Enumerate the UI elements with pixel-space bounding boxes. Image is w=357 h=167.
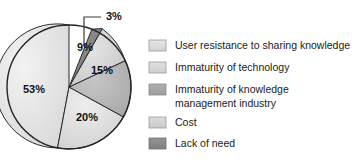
pie-group (0, 24, 131, 149)
slice-label-3pct: 3% (106, 10, 122, 22)
legend-item-cost[interactable]: Cost (149, 116, 197, 128)
legend-swatch-icon (149, 84, 166, 95)
slice-label-9pct: 9% (77, 41, 93, 53)
legend-label-user-resistance: User resistance to sharing knowledge (175, 39, 350, 51)
legend-label-immaturity-technology: Immaturity of technology (175, 61, 290, 73)
slice-label-15pct: 15% (91, 64, 113, 76)
legend-item-immaturity-km-industry[interactable]: Immaturity of knowledge management indus… (149, 83, 289, 109)
legend-item-lack-of-need[interactable]: Lack of need (149, 137, 235, 149)
legend: User resistance to sharing knowledge Imm… (149, 39, 350, 149)
legend-label-immaturity-km-industry-line2: management industry (175, 97, 277, 109)
legend-swatch-icon (149, 40, 166, 51)
legend-label-cost: Cost (175, 116, 197, 128)
slice-label-20pct: 20% (76, 111, 98, 123)
legend-label-lack-of-need: Lack of need (175, 137, 235, 149)
legend-item-immaturity-technology[interactable]: Immaturity of technology (149, 61, 290, 73)
chart-svg: 3% 9% 15% 20% 53% User resistance to sha… (0, 0, 357, 167)
pie-chart-figure: 3% 9% 15% 20% 53% User resistance to sha… (0, 0, 357, 167)
legend-label-immaturity-km-industry: Immaturity of knowledge (175, 83, 289, 95)
legend-swatch-icon (149, 117, 166, 128)
legend-swatch-icon (149, 62, 166, 73)
legend-swatch-icon (149, 138, 166, 149)
legend-item-user-resistance[interactable]: User resistance to sharing knowledge (149, 39, 350, 51)
slice-label-53pct: 53% (23, 83, 45, 95)
